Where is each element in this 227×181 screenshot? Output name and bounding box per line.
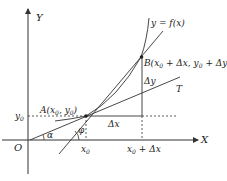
dy-label: Δy: [143, 76, 156, 86]
alpha-arc: [43, 135, 44, 141]
x-axis-label: X: [200, 134, 209, 145]
point-b: [140, 55, 144, 59]
derivative-diagram: Y X O y = f(x) A(x0, y0) B(x0 + Δx, y0 +…: [0, 0, 227, 181]
phi-label: φ: [78, 125, 85, 135]
alpha-label: α: [47, 130, 53, 140]
curve-label: y = f(x): [150, 18, 185, 28]
origin-label: O: [14, 142, 22, 153]
y0-tick-label: y0: [14, 111, 24, 122]
point-a: [84, 114, 88, 118]
point-b-label: B(x0 + Δx, y0 + Δy): [143, 58, 227, 69]
y-axis-label: Y: [36, 12, 44, 23]
dx-label: Δx: [107, 119, 120, 129]
secant-line: [59, 31, 163, 154]
point-a-label: A(x0, y0): [39, 105, 78, 116]
x0-tick-label: x0: [81, 144, 90, 155]
tangent-label: T: [176, 84, 183, 94]
x0-plus-dx-tick-label: x0 + Δx: [127, 144, 161, 155]
